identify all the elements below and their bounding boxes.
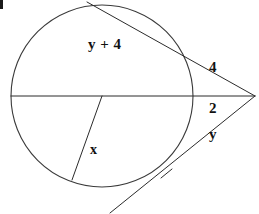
label-upper-chord: y + 4 bbox=[88, 37, 122, 52]
label-upper-external-segment: 4 bbox=[209, 60, 217, 75]
geometry-canvas bbox=[0, 0, 259, 214]
label-lower-chord: y bbox=[209, 127, 217, 142]
corner-artifact bbox=[0, 0, 3, 9]
geometry-diagram: y + 4 4 2 y x bbox=[0, 0, 259, 214]
label-lower-external-segment: 2 bbox=[209, 101, 217, 116]
label-radius: x bbox=[90, 143, 97, 157]
diagram-background bbox=[0, 0, 259, 214]
